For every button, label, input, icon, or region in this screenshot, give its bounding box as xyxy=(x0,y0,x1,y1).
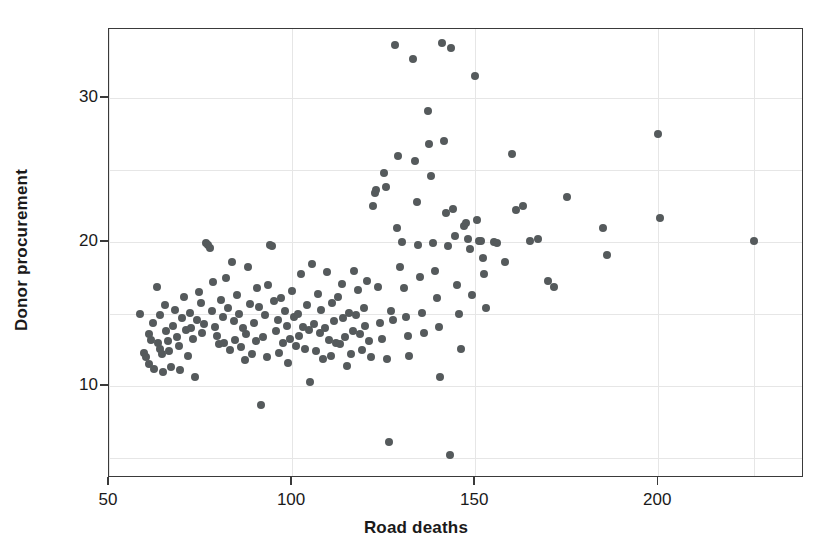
data-point xyxy=(235,310,243,318)
data-point xyxy=(440,137,448,145)
data-point xyxy=(400,284,408,292)
data-point xyxy=(427,172,435,180)
data-point xyxy=(255,303,263,311)
data-point xyxy=(446,451,454,459)
data-point xyxy=(310,320,318,328)
data-point xyxy=(248,350,256,358)
data-point xyxy=(161,301,169,309)
data-point xyxy=(323,268,331,276)
data-point xyxy=(321,324,329,332)
data-point xyxy=(186,309,194,317)
data-point xyxy=(501,258,509,266)
data-point xyxy=(424,107,432,115)
data-point xyxy=(369,202,377,210)
data-point xyxy=(162,327,170,335)
gridline-horizontal xyxy=(109,170,802,171)
data-point xyxy=(156,311,164,319)
data-point xyxy=(396,263,404,271)
data-point xyxy=(208,307,216,315)
data-point xyxy=(209,278,217,286)
data-point xyxy=(466,245,474,253)
data-point xyxy=(150,365,158,373)
data-point xyxy=(264,281,272,289)
data-point xyxy=(303,301,311,309)
data-point xyxy=(383,355,391,363)
data-point xyxy=(189,335,197,343)
data-point xyxy=(187,324,195,332)
data-point xyxy=(319,355,327,363)
data-point xyxy=(479,254,487,262)
y-axis-title: Donor procurement xyxy=(12,169,32,331)
data-point xyxy=(453,281,461,289)
data-point xyxy=(433,294,441,302)
data-point xyxy=(654,130,662,138)
data-point xyxy=(447,44,455,52)
data-point xyxy=(394,152,402,160)
data-point xyxy=(365,337,373,345)
x-tick-label: 50 xyxy=(99,490,118,510)
data-point xyxy=(176,366,184,374)
data-point xyxy=(184,352,192,360)
data-point xyxy=(363,277,371,285)
data-point xyxy=(358,346,366,354)
data-point xyxy=(526,237,534,245)
y-tick-label: 30 xyxy=(60,87,98,107)
data-point xyxy=(213,332,221,340)
x-tick-label: 100 xyxy=(277,490,305,510)
data-point xyxy=(173,333,181,341)
data-point xyxy=(508,150,516,158)
data-point xyxy=(314,290,322,298)
data-point xyxy=(376,319,384,327)
data-point xyxy=(493,239,501,247)
data-point xyxy=(420,329,428,337)
data-point xyxy=(242,330,250,338)
data-point xyxy=(414,241,422,249)
data-point xyxy=(175,342,183,350)
data-point xyxy=(411,157,419,165)
y-tick-mark xyxy=(100,240,108,242)
data-point xyxy=(457,345,465,353)
data-point xyxy=(191,373,199,381)
data-point xyxy=(226,346,234,354)
data-point xyxy=(341,333,349,341)
y-tick-mark xyxy=(100,96,108,98)
data-point xyxy=(356,330,364,338)
data-point xyxy=(350,267,358,275)
data-point xyxy=(230,317,238,325)
data-point xyxy=(257,401,265,409)
data-point xyxy=(317,306,325,314)
x-tick-mark xyxy=(107,477,109,485)
data-point xyxy=(338,280,346,288)
gridline-horizontal xyxy=(109,458,802,459)
gridline-vertical xyxy=(754,29,755,476)
data-point xyxy=(436,373,444,381)
data-point xyxy=(244,263,252,271)
data-point xyxy=(393,224,401,232)
data-point xyxy=(274,316,282,324)
data-point xyxy=(480,270,488,278)
data-point xyxy=(438,39,446,47)
data-point xyxy=(382,183,390,191)
data-point xyxy=(347,350,355,358)
data-point xyxy=(178,314,186,322)
data-point xyxy=(292,342,300,350)
data-point xyxy=(228,258,236,266)
data-point xyxy=(149,319,157,327)
gridline-horizontal xyxy=(109,386,802,387)
data-point xyxy=(306,378,314,386)
scatter-chart-figure: Donor procurement Road deaths 5010015020… xyxy=(0,0,832,554)
data-point xyxy=(237,343,245,351)
y-axis-title-wrapper: Donor procurement xyxy=(0,0,44,500)
data-point xyxy=(283,322,291,330)
data-point xyxy=(389,316,397,324)
data-point xyxy=(425,140,433,148)
data-point xyxy=(219,313,227,321)
data-point xyxy=(165,347,173,355)
x-tick-label: 150 xyxy=(460,490,488,510)
gridline-vertical xyxy=(292,29,293,476)
data-point xyxy=(361,322,369,330)
data-point xyxy=(211,323,219,331)
data-point xyxy=(402,313,410,321)
data-point xyxy=(167,363,175,371)
data-point xyxy=(222,274,230,282)
